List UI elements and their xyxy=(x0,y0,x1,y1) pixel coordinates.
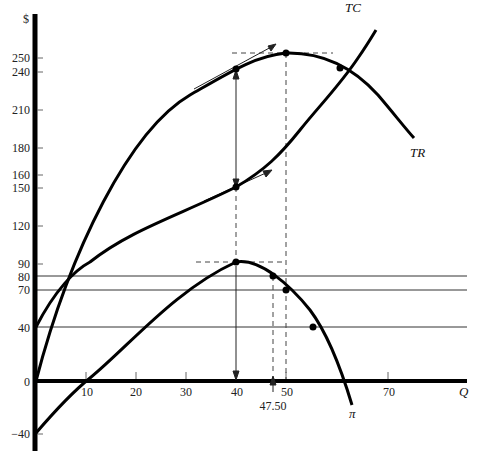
y-axis-label: $ xyxy=(23,12,29,26)
x-tick-20: 20 xyxy=(130,385,142,399)
y-tick-minus40: −40 xyxy=(11,427,30,441)
x-tick-30: 30 xyxy=(180,385,192,399)
tc-label: TC xyxy=(345,0,361,15)
points xyxy=(233,50,344,331)
profit-maximization-chart: $ 250 240 210 180 160 150 120 90 80 70 4… xyxy=(0,0,477,451)
tr-curve xyxy=(36,53,414,381)
y-tick-0: 0 xyxy=(24,375,30,389)
tc-curve xyxy=(36,30,376,327)
x-tick-70: 70 xyxy=(383,385,395,399)
x-tick-40: 40 xyxy=(231,385,243,399)
y-tick-80: 80 xyxy=(18,270,30,284)
y-tick-160: 160 xyxy=(12,168,30,182)
y-tick-240: 240 xyxy=(12,65,30,79)
y-tick-120: 120 xyxy=(12,219,30,233)
pi-label: π xyxy=(349,406,356,421)
y-tick-180: 180 xyxy=(12,141,30,155)
y-tick-210: 210 xyxy=(12,103,30,117)
y-tick-70: 70 xyxy=(18,283,30,297)
y-tick-90: 90 xyxy=(18,257,30,271)
y-tick-250: 250 xyxy=(12,51,30,65)
y-tick-40: 40 xyxy=(18,321,30,335)
x-axis-label: Q xyxy=(459,384,469,399)
profit-curve xyxy=(36,262,352,433)
arrows-q40 xyxy=(233,70,276,392)
y-tick-150: 150 xyxy=(12,181,30,195)
x-label-47-50: 47.50 xyxy=(260,399,287,413)
tr-label: TR xyxy=(410,145,425,160)
x-tick-10: 10 xyxy=(81,385,93,399)
x-tick-50: 50 xyxy=(281,385,293,399)
